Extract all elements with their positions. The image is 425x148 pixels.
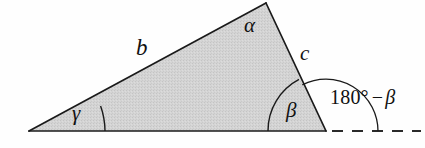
triangle-exterior-angle-figure: b c α β γ 180°−β [0, 0, 425, 148]
label-angle-alpha: α [244, 15, 255, 36]
exterior-angle-number: 180 [330, 86, 361, 108]
exterior-angle-beta-term: β [385, 86, 395, 108]
degree-sign-icon: ° [361, 86, 369, 108]
label-exterior-angle-expression: 180°−β [330, 87, 395, 107]
label-angle-beta: β [286, 100, 296, 121]
minus-sign-icon: − [369, 86, 385, 108]
label-angle-gamma: γ [72, 103, 80, 124]
label-side-b: b [136, 36, 148, 59]
diagram-canvas [0, 0, 425, 148]
label-side-c: c [300, 43, 309, 64]
